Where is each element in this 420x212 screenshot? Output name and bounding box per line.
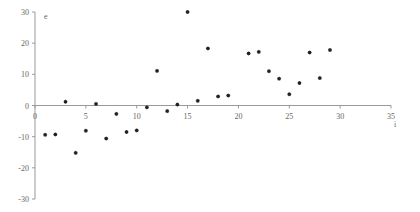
x-tick-label: 25 [285,112,293,121]
y-tick-label: -10 [18,133,29,142]
y-tick-label: 10 [21,70,29,79]
x-tick-label: 0 [33,112,37,121]
y-tick-label: -30 [18,195,29,204]
y-tick-label: 20 [21,39,29,48]
x-axis-label: i [394,120,397,129]
axes: -30-20-10010203005101520253035 [18,8,395,204]
x-tick-label: 15 [184,112,192,121]
scatter-chart: -30-20-10010203005101520253035 e i [0,0,420,212]
y-tick-label: -20 [18,164,29,173]
x-tick-label: 30 [336,112,344,121]
plot-area: -30-20-10010203005101520253035 e i [0,0,420,212]
x-tick-label: 10 [133,112,141,121]
x-tick-label: 5 [84,112,88,121]
x-tick-label: 20 [234,112,242,121]
y-axis-label: e [44,12,48,21]
y-tick-label: 30 [21,8,29,17]
data-points [43,10,332,155]
y-tick-label: 0 [25,102,29,111]
